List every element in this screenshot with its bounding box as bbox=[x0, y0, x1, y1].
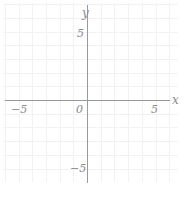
y-axis-line bbox=[87, 5, 88, 183]
grid-line-horizontal bbox=[3, 4, 178, 5]
grid-line-horizontal bbox=[3, 45, 178, 46]
grid-line-horizontal bbox=[3, 127, 178, 128]
x-axis-label: x bbox=[172, 94, 179, 106]
y-tick-label-5: 5 bbox=[77, 28, 84, 39]
grid-lines bbox=[3, 3, 178, 182]
grid-line-horizontal bbox=[3, 86, 178, 87]
grid-line-horizontal bbox=[3, 18, 178, 19]
x-tick-label-5: 5 bbox=[151, 104, 158, 115]
grid-line-horizontal bbox=[3, 59, 178, 60]
grid-line-horizontal bbox=[3, 73, 178, 74]
origin-label: 0 bbox=[76, 104, 83, 115]
grid-line-horizontal bbox=[3, 141, 178, 142]
grid-line-horizontal bbox=[3, 169, 178, 170]
y-tick-label-minus5: −5 bbox=[70, 163, 86, 174]
grid-line-horizontal bbox=[3, 155, 178, 156]
coordinate-plane-figure: y x 5 −5 −5 5 0 bbox=[0, 0, 187, 198]
grid-line-horizontal bbox=[3, 32, 178, 33]
x-tick-label-minus5: −5 bbox=[11, 104, 27, 115]
y-axis-label: y bbox=[82, 7, 89, 19]
